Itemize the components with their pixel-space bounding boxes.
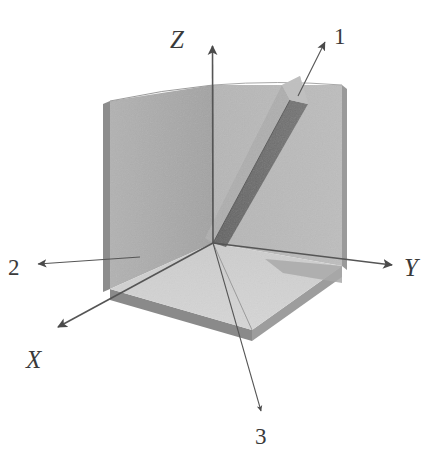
direction-3-label: 3 [255, 424, 267, 449]
axis-z-line [213, 46, 214, 243]
axis-x-label: X [25, 346, 43, 373]
axis-z-label: Z [170, 26, 185, 53]
figure-root: Z Y X 1 2 3 [0, 0, 436, 453]
direction-2-label: 2 [8, 255, 20, 280]
coordinate-system-diagram: Z Y X 1 2 3 [0, 0, 436, 453]
plane-right-thickness [342, 85, 347, 270]
plane-left-thickness [103, 101, 110, 292]
direction-1-label: 1 [334, 24, 346, 49]
